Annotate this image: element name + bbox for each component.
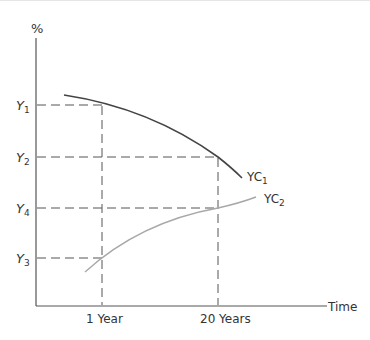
x-tick-20years: 20 Years <box>200 312 251 326</box>
y4-label: Y4 <box>16 201 30 218</box>
yc1-label: YC1 <box>246 170 268 186</box>
y1-label: Y1 <box>16 98 30 115</box>
yc2-label: YC2 <box>263 192 285 208</box>
yield-curve-yc1 <box>64 95 242 178</box>
y-axis-label: % <box>31 21 43 36</box>
guide-lines <box>37 105 218 305</box>
x-tick-1year: 1 Year <box>86 312 123 326</box>
y3-label: Y3 <box>16 251 30 268</box>
y2-label: Y2 <box>16 150 30 167</box>
yield-curve-chart: % Y1 Y2 Y4 Y3 1 Year 20 Years Time YC1 Y… <box>0 0 370 340</box>
x-axis-label: Time <box>327 300 357 314</box>
